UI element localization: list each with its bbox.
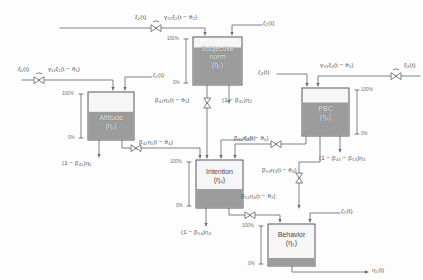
- input-flow-xi1: γ₁₁ξ₁(t − θ₁): [48, 66, 80, 72]
- scale-bottom-subjective: 0%: [173, 80, 180, 85]
- tank-symbol-pbc: (η₃): [320, 113, 331, 120]
- input-source-xi3: ξ₃(t): [404, 62, 416, 68]
- diagram-canvas: Attitude (η₁) 100% 0% Subjective norm (η…: [0, 0, 423, 280]
- tank-name-intention: Intention: [206, 168, 233, 175]
- input-source-xi2: ξ₂(t): [135, 14, 147, 20]
- tank-label-intention: Intention (η₄): [196, 168, 243, 184]
- tank-symbol-intention: (η₄): [214, 176, 225, 183]
- input-flow-xi2: γ₂₂ξ₂(t − θ₂): [164, 14, 197, 20]
- tank-symbol-behavior: (η₅): [286, 239, 297, 246]
- loss-label-intention: (1 − β₅₄)η₄: [181, 229, 211, 235]
- disturbance-zeta3: ζ₃(t): [258, 69, 270, 75]
- tank-name-behavior: Behavior: [278, 231, 306, 238]
- tank-label-behavior: Behavior (η₅): [268, 231, 315, 247]
- tank-label-attitude: Attitude (η₁): [88, 114, 134, 130]
- tank-label-subjective-norm: Subjective norm (η₂): [193, 45, 242, 69]
- flow-label-b53: β₅₃η₃(t − θ₈): [262, 167, 297, 173]
- scale-top-subjective: 100%: [167, 36, 179, 41]
- tank-name-pbc: PBC: [318, 105, 332, 112]
- input-flow-xi3: γ₃₃ξ₃(t − θ₃): [320, 62, 354, 68]
- tank-symbol-subjective: (η₂): [212, 61, 223, 68]
- tank-name-attitude: Attitude: [99, 114, 123, 121]
- flow-label-b54: β₅₄η₄(t − θ₇): [241, 193, 275, 199]
- scale-top-intention: 100%: [170, 159, 182, 164]
- tank-name-subjective-line2: norm: [210, 53, 226, 60]
- disturbance-zeta2: ζ₂(t): [263, 20, 274, 26]
- flow-label-b43: β₄₃η₃(t − θ₆): [234, 135, 269, 141]
- tank-name-subjective: Subjective: [201, 45, 233, 52]
- disturbance-zeta5: ζ₅(t): [341, 208, 353, 214]
- scale-top-attitude: 100%: [62, 91, 74, 96]
- loss-label-subjective: (1 − β₄₂)η₂: [222, 97, 252, 103]
- scale-top-pbc: 100%: [361, 87, 373, 92]
- flow-label-b41: β₄₁η₁(t − θ₄): [139, 139, 173, 145]
- scale-bottom-intention: 0%: [176, 203, 183, 208]
- tank-symbol-attitude: (η₁): [106, 122, 117, 129]
- output-label-eta5: η₅(t): [372, 267, 384, 273]
- scale-bottom-attitude: 0%: [68, 135, 75, 140]
- disturbance-zeta1: ζ₁(t): [153, 72, 164, 78]
- loss-label-attitude: (1 − β₄₁)η₁: [62, 160, 91, 166]
- input-source-xi1: ξ₁(t): [18, 66, 29, 72]
- flow-label-b42: β₄₂η₂(t − θ₅): [155, 97, 189, 103]
- tank-label-pbc: PBC (η₃): [302, 105, 349, 121]
- loss-label-pbc: (1 − β₄₃ − β₅₃)η₃: [319, 155, 366, 161]
- scale-bottom-behavior: 0%: [248, 261, 255, 266]
- scale-top-behavior: 100%: [242, 223, 254, 228]
- diagram-vector-layer: [0, 0, 423, 280]
- scale-bottom-pbc: 0%: [361, 131, 368, 136]
